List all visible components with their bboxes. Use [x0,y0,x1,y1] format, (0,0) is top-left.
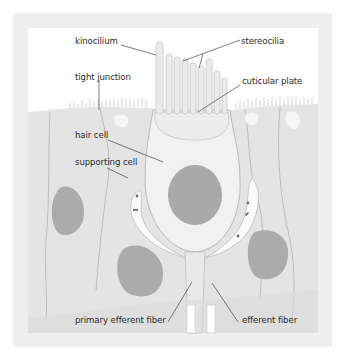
label-stereocilia: stereocilia [241,37,284,46]
nerve-fiber-right [207,305,215,333]
kinocilium-shaft [156,42,163,114]
label-hair-cell: hair cell [75,131,108,140]
hair-cell-illustration [0,0,338,353]
hair-cell-nucleus [168,165,222,225]
label-cuticular-plate: cuticular plate [242,77,302,86]
label-efferent-fiber: efferent fiber [242,316,297,325]
stereocilia-bundle [156,42,227,114]
label-tight-junction: tight junction [75,73,131,82]
nerve-fiber-left [187,305,195,333]
supporting-cell-nucleus-right [248,230,288,279]
label-supporting-cell: supporting cell [75,158,137,167]
label-kinocilium: kinocilium [75,37,118,46]
label-primary-efferent-fiber: primary efferent fiber [75,316,166,325]
